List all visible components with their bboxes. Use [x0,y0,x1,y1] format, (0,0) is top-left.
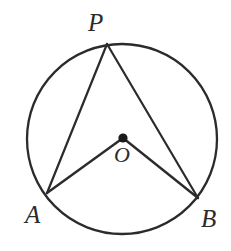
vertex-label-p: P [88,10,103,35]
vertex-label-a: A [25,202,40,227]
vertex-label-b: B [201,206,216,231]
geometry-figure: P A B O [0,0,231,251]
radius-o-b [123,138,198,198]
vertex-label-o: O [114,144,130,166]
